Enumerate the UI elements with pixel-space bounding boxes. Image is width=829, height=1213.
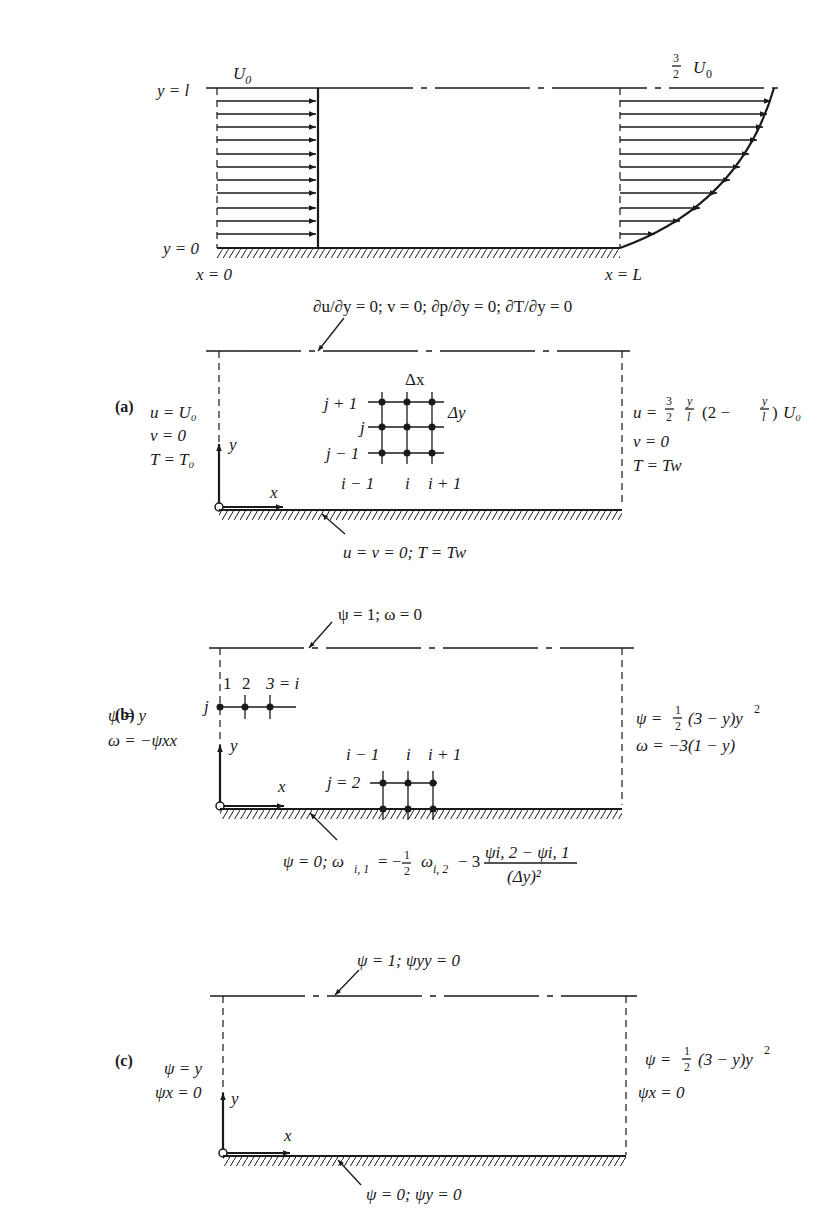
panel-c-wall-hatching <box>223 1157 626 1166</box>
svg-text:ω = −3(1 − y): ω = −3(1 − y) <box>636 736 736 755</box>
outlet-velocity-label: 3 2 U 0 <box>672 51 712 81</box>
svg-text:j − 1: j − 1 <box>324 444 359 463</box>
panel-b-wall-hatching <box>220 810 622 819</box>
svg-text:x: x <box>269 483 278 502</box>
panel-a-axes: y x <box>215 435 283 511</box>
svg-text:U: U <box>693 58 707 77</box>
svg-text:j: j <box>202 697 209 716</box>
svg-text:2: 2 <box>673 67 679 81</box>
svg-text:ψ = 0; ω: ψ = 0; ω <box>283 852 344 871</box>
svg-text:2: 2 <box>666 410 672 424</box>
panel-c-label: (c) <box>115 1052 133 1070</box>
svg-text:j = 2: j = 2 <box>325 773 361 792</box>
svg-text:ψx = 0: ψx = 0 <box>155 1083 202 1102</box>
svg-text:2: 2 <box>764 1043 770 1057</box>
svg-text:1: 1 <box>684 1044 690 1058</box>
svg-text:j + 1: j + 1 <box>322 394 357 413</box>
svg-text:Δx: Δx <box>405 370 425 389</box>
svg-text:l: l <box>687 410 691 424</box>
svg-text:(Δy)²: (Δy)² <box>507 867 542 886</box>
svg-text:l: l <box>762 410 766 424</box>
panel-b-axes: y x <box>216 736 286 810</box>
svg-text:y: y <box>761 394 768 408</box>
panel-a-outlet-bc: u = 3 2 y l (2 − y l ) U₀ v = 0 T = Tw <box>633 394 801 475</box>
panel-a-wall-hatching <box>219 511 622 520</box>
svg-text:2: 2 <box>242 674 251 693</box>
wall-hatching <box>217 249 620 258</box>
svg-text:i, 2: i, 2 <box>433 862 448 876</box>
svg-text:ψ = y: ψ = y <box>164 1059 203 1078</box>
svg-text:i − 1: i − 1 <box>341 474 374 493</box>
svg-text:u =: u = <box>633 403 657 422</box>
svg-text:T = T₀: T = T₀ <box>150 450 195 469</box>
top-bc-pointer-arrow <box>318 318 344 351</box>
panel-b-top-bc: ψ = 1; ω = 0 <box>338 605 422 624</box>
svg-text:y: y <box>227 435 237 454</box>
svg-text:3: 3 <box>673 51 679 65</box>
panel-c-inlet-bc: ψ = y ψx = 0 <box>155 1059 203 1102</box>
panel-b-wall-bc: ψ = 0; ω i, 1 = − 1 2 ω i, 2 − 3 ψi, 2 −… <box>283 843 577 886</box>
panel-b: ψ = 1; ω = 0 (b) ψ = y ω = −ψxx 1 2 3 = … <box>108 605 760 886</box>
outlet-velocity-arrows <box>620 101 771 234</box>
svg-text:ψx = 0: ψx = 0 <box>638 1083 685 1102</box>
panel-b-inlet-stencil: 1 2 3 = i j <box>202 674 299 719</box>
inlet-velocity-label: U0 <box>233 64 251 87</box>
y-top-label: y = l <box>155 81 190 100</box>
panel-c-wall-bc: ψ = 0; ψy = 0 <box>366 1185 462 1204</box>
svg-text:y: y <box>686 394 693 408</box>
svg-text:x: x <box>277 777 286 796</box>
panel-a-stencil-grid: Δx Δy j + 1 j j − 1 i − 1 i i + 1 <box>322 370 466 493</box>
svg-text:i + 1: i + 1 <box>428 474 461 493</box>
channel-flow-diagram: U0 y = l y = 0 x = 0 x = L 3 2 U 0 <box>0 0 829 1213</box>
svg-text:(3 − y)y: (3 − y)y <box>688 709 743 728</box>
panel-c: ψ = 1; ψyy = 0 (c) ψ = y ψx = 0 y x ψ = … <box>115 951 770 1204</box>
svg-text:v = 0: v = 0 <box>150 426 187 445</box>
svg-text:ψ = y: ψ = y <box>108 706 147 725</box>
svg-text:− 3: − 3 <box>458 852 480 871</box>
panel-a-top-bc: ∂u/∂y = 0; v = 0; ∂p/∂y = 0; ∂T/∂y = 0 <box>313 297 572 316</box>
svg-text:i + 1: i + 1 <box>428 745 461 764</box>
svg-text:ψi, 2 − ψi, 1: ψi, 2 − ψi, 1 <box>485 843 570 862</box>
top-channel-sketch: U0 y = l y = 0 x = 0 x = L 3 2 U 0 <box>155 51 783 284</box>
panel-b-outlet-bc: ψ = 1 2 (3 − y)y 2 ω = −3(1 − y) <box>636 702 760 755</box>
panel-c-outlet-bc: ψ = 1 2 (3 − y)y 2 ψx = 0 <box>638 1043 770 1102</box>
x-inlet-label: x = 0 <box>195 265 233 284</box>
svg-text:x: x <box>283 1126 292 1145</box>
svg-text:(3 − y)y: (3 − y)y <box>698 1050 753 1069</box>
svg-text:0: 0 <box>706 67 712 81</box>
svg-text:2: 2 <box>675 719 681 733</box>
panel-c-axes: y x <box>219 1089 292 1157</box>
svg-text:y: y <box>229 1089 239 1108</box>
svg-text:2: 2 <box>404 864 410 878</box>
svg-text:1: 1 <box>404 848 410 862</box>
svg-text:): ) <box>772 403 778 422</box>
svg-text:3: 3 <box>666 394 672 408</box>
panel-a-wall-bc: u = v = 0; T = Tw <box>343 543 467 562</box>
svg-text:y: y <box>228 736 238 755</box>
svg-text:ψ =: ψ = <box>636 709 662 728</box>
svg-text:Δy: Δy <box>447 403 466 422</box>
svg-text:i: i <box>406 745 411 764</box>
svg-text:U₀: U₀ <box>783 403 801 422</box>
svg-text:2: 2 <box>754 702 760 716</box>
svg-text:ω = −ψxx: ω = −ψxx <box>108 731 178 750</box>
svg-text:= −: = − <box>378 852 401 871</box>
inlet-velocity-arrows <box>217 101 316 234</box>
svg-text:3 = i: 3 = i <box>265 674 299 693</box>
x-outlet-label: x = L <box>604 265 642 284</box>
svg-text:v = 0: v = 0 <box>633 432 670 451</box>
svg-text:T = Tw: T = Tw <box>633 456 682 475</box>
panel-a: ∂u/∂y = 0; v = 0; ∂p/∂y = 0; ∂T/∂y = 0 (… <box>115 297 801 562</box>
panel-a-inlet-bc: u = U₀ v = 0 T = T₀ <box>150 403 197 469</box>
svg-text:u = U₀: u = U₀ <box>150 403 197 422</box>
svg-text:1: 1 <box>223 674 232 693</box>
outlet-parabolic-profile <box>620 88 774 248</box>
panel-a-label: (a) <box>115 398 134 416</box>
svg-text:(2 −: (2 − <box>702 403 730 422</box>
y-bottom-label: y = 0 <box>161 239 200 258</box>
svg-text:1: 1 <box>675 703 681 717</box>
svg-text:j: j <box>358 418 365 437</box>
svg-text:i: i <box>405 474 410 493</box>
panel-c-top-bc: ψ = 1; ψyy = 0 <box>357 951 461 970</box>
panel-b-inlet-bc: ψ = y ω = −ψxx <box>108 706 178 750</box>
